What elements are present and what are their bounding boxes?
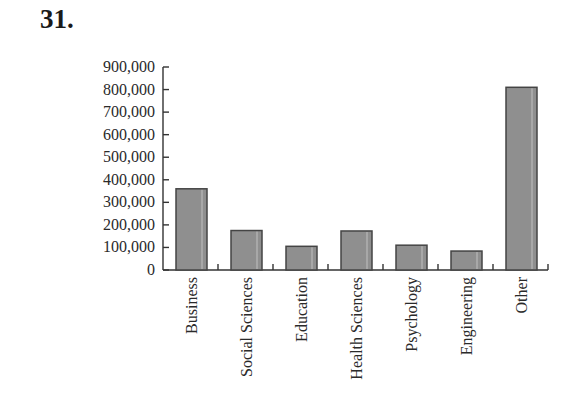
x-tick-label: Psychology [403,277,421,352]
y-tick-label: 900,000 [103,58,155,75]
y-tick-label: 600,000 [103,126,155,143]
y-tick-label: 100,000 [103,238,155,255]
x-tick-label: Social Sciences [238,277,255,377]
bar-highlight [256,232,258,269]
y-tick-label: 500,000 [103,148,155,165]
y-tick-label: 0 [147,261,155,278]
bar-highlight [311,247,313,269]
y-tick-label: 200,000 [103,216,155,233]
y-tick-label: 800,000 [103,81,155,98]
bar-highlight [366,232,368,269]
x-tick-label: Business [183,277,200,334]
x-tick-label: Engineering [458,277,476,355]
bar-highlight [531,88,533,269]
bar-highlight [201,190,203,269]
bar-chart: 0100,000200,000300,000400,000500,000600,… [0,0,566,407]
y-tick-label: 400,000 [103,171,155,188]
bar-highlight [476,252,478,269]
bar-highlight [421,246,423,269]
y-tick-label: 700,000 [103,103,155,120]
y-tick-label: 300,000 [103,193,155,210]
x-tick-label: Health Sciences [348,277,365,380]
x-tick-label: Other [513,276,530,313]
x-tick-label: Education [293,277,310,342]
